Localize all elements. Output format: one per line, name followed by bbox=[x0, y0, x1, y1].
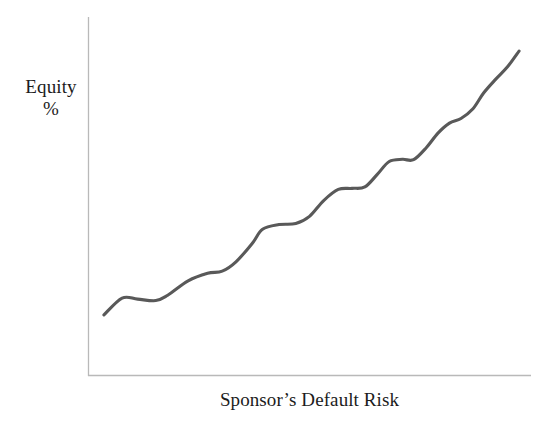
y-axis-label: Equity % bbox=[18, 76, 84, 121]
chart-plot-area bbox=[0, 0, 555, 426]
y-axis-label-line1: Equity bbox=[18, 76, 84, 98]
y-axis-label-line2: % bbox=[18, 98, 84, 120]
x-axis-label: Sponsor’s Default Risk bbox=[88, 389, 531, 411]
equity-risk-curve bbox=[104, 51, 519, 315]
chart-figure: Equity % Sponsor’s Default Risk bbox=[0, 0, 555, 426]
